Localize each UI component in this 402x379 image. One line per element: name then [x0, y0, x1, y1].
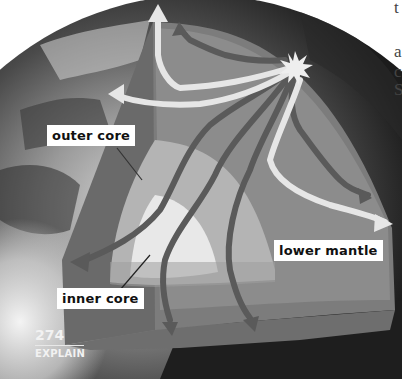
textbook-page: outer core inner core lower mantle 274 E…: [0, 0, 402, 379]
lower-mantle-label: lower mantle: [274, 240, 383, 261]
cropped-text-fragment: t: [394, 0, 399, 18]
section-label: EXPLAIN: [35, 348, 85, 359]
cropped-text-fragment: S: [394, 80, 402, 100]
outer-core-label: outer core: [47, 125, 135, 146]
earth-interior-illustration: [0, 0, 402, 379]
cropped-text-fragment: a: [394, 42, 402, 62]
inner-core-label: inner core: [57, 288, 144, 309]
cropped-text-fragment: c: [394, 62, 402, 82]
page-number: 274: [35, 327, 64, 343]
page-number-divider: [35, 345, 84, 346]
